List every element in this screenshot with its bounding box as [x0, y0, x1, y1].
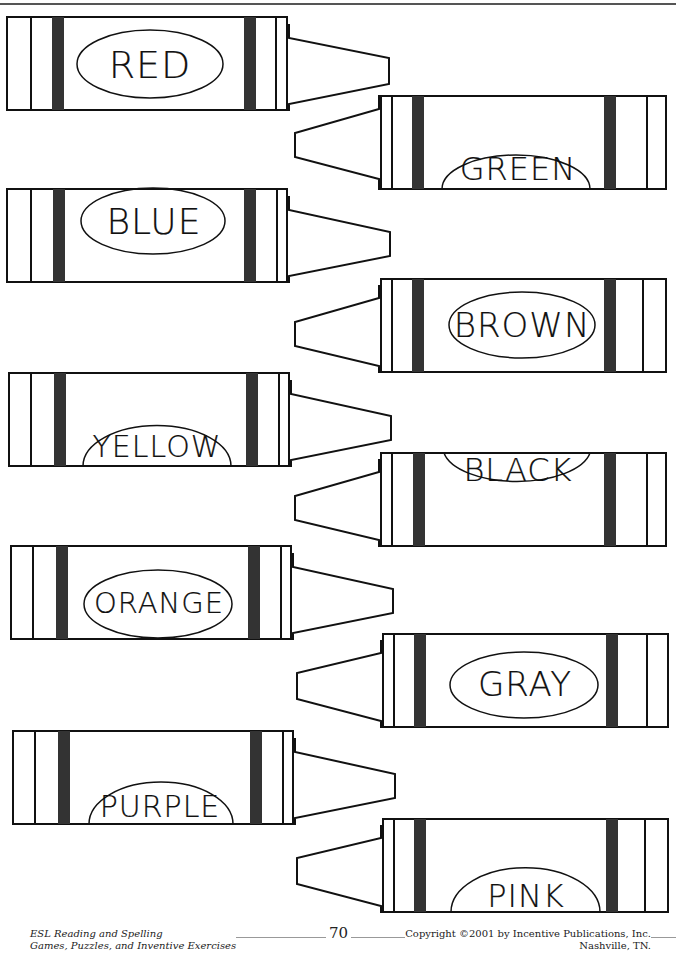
crayon-label: BLUE	[81, 204, 227, 240]
publisher-location: Nashville, TN.	[405, 940, 651, 952]
crayon-label: PURPLE	[89, 792, 231, 822]
crayon-label: BLACK	[447, 454, 589, 486]
crayon-blue: BLUE	[7, 188, 407, 288]
footer-book-info: ESL Reading and Spelling Games, Puzzles,…	[30, 928, 236, 952]
page-number: 70	[326, 924, 351, 942]
crayon-pink: PINK	[287, 818, 676, 918]
book-title: ESL Reading and Spelling	[30, 928, 236, 940]
book-subtitle: Games, Puzzles, and Inventive Exercises	[30, 940, 236, 952]
crayon-label: GREEN	[447, 153, 589, 185]
crayon-green: GREEN	[287, 95, 676, 195]
crayon-label: YELLOW	[85, 432, 229, 462]
crayon-purple: PURPLE	[13, 730, 413, 830]
crayon-label: ORANGE	[87, 589, 231, 618]
crayon-label: RED	[77, 46, 223, 84]
crayon-gray: GRAY	[287, 633, 676, 733]
crayon-orange: ORANGE	[11, 545, 411, 645]
crayon-label: BROWN	[449, 308, 595, 342]
crayon-black: BLACK	[287, 452, 676, 552]
top-rule	[0, 3, 676, 5]
crayon-label: GRAY	[452, 667, 598, 701]
crayon-label: PINK	[453, 880, 599, 912]
copyright-text: Copyright ©2001 by Incentive Publication…	[405, 928, 651, 940]
footer-copyright: Copyright ©2001 by Incentive Publication…	[405, 928, 651, 952]
crayon-brown: BROWN	[287, 278, 676, 378]
page-footer: ESL Reading and Spelling Games, Puzzles,…	[0, 928, 676, 954]
